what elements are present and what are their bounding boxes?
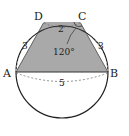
length-DC: 2: [58, 24, 64, 34]
label-C: C: [78, 10, 86, 23]
length-AD: 3: [22, 41, 28, 51]
length-CB: 3: [98, 41, 104, 51]
length-AB: 5: [59, 78, 65, 88]
label-B: B: [110, 67, 118, 80]
label-D: D: [34, 10, 43, 23]
label-A: A: [2, 67, 12, 80]
geometry-diagram: D C A B 2 3 3 5 120°: [0, 0, 129, 136]
angle-label: 120°: [53, 47, 75, 57]
